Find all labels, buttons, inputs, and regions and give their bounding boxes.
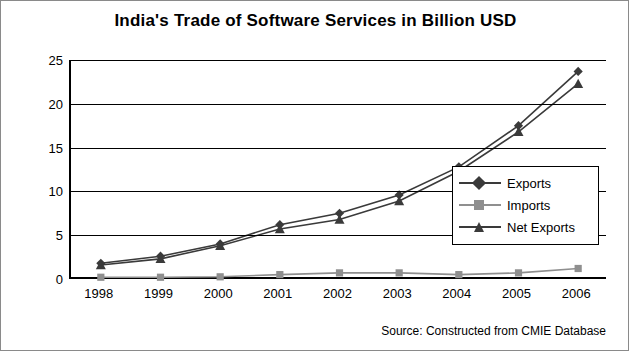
- legend-label: Imports: [501, 198, 550, 213]
- x-tick-label: 2006: [546, 286, 606, 301]
- y-tick-label: 5: [33, 228, 63, 243]
- chart-title: India's Trade of Software Services in Bi…: [1, 11, 629, 31]
- legend-label: Exports: [501, 176, 551, 191]
- x-tick-label: 2001: [248, 286, 308, 301]
- legend-label: Net Exports: [501, 220, 575, 235]
- y-tick-label: 20: [33, 96, 63, 111]
- gridline: [71, 60, 606, 61]
- legend-marker-square-icon: [459, 198, 501, 212]
- y-tick-label: 0: [33, 272, 63, 287]
- legend-item-net-exports: Net Exports: [459, 216, 592, 238]
- legend-marker-diamond-icon: [459, 176, 501, 190]
- y-tick-label: 15: [33, 140, 63, 155]
- x-tick-label: 2000: [188, 286, 248, 301]
- chart-container: India's Trade of Software Services in Bi…: [0, 0, 629, 351]
- y-tick-label: 10: [33, 184, 63, 199]
- gridline: [71, 148, 606, 149]
- x-tick-label: 2005: [487, 286, 547, 301]
- x-tick-label: 1998: [69, 286, 129, 301]
- legend-item-exports: Exports: [459, 172, 592, 194]
- x-tick-label: 2004: [427, 286, 487, 301]
- legend-item-imports: Imports: [459, 194, 592, 216]
- source-note: Source: Constructed from CMIE Database: [381, 324, 606, 338]
- x-tick-label: 1999: [129, 286, 189, 301]
- x-axis-tick-labels: 199819992000200120022003200420052006: [69, 286, 606, 304]
- gridline: [71, 104, 606, 105]
- y-tick-label: 25: [33, 53, 63, 68]
- x-tick-label: 2002: [308, 286, 368, 301]
- legend-marker-triangle-icon: [459, 220, 501, 234]
- chart-legend: Exports Imports Net Exports: [452, 166, 599, 245]
- series-imports: [97, 265, 582, 281]
- y-axis-tick-labels: 2520151050: [27, 60, 63, 279]
- x-tick-label: 2003: [367, 286, 427, 301]
